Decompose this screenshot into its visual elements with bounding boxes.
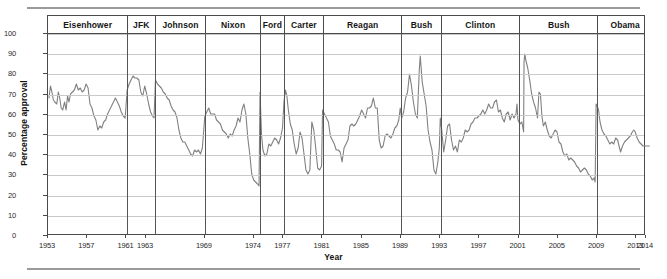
president-band-ford-4: Ford: [260, 16, 284, 33]
x-tick-mark: [635, 235, 636, 238]
y-axis-label: Percentage approval: [19, 63, 29, 183]
x-tick-mark: [439, 235, 440, 238]
y-tick-label: 50: [0, 130, 16, 139]
president-band-bush-9: Bush: [519, 16, 597, 33]
y-tick-mark: [43, 114, 47, 115]
gridline-y: [48, 95, 644, 96]
president-band-jfk-1: JFK: [127, 16, 155, 33]
president-divider-line: [597, 34, 598, 234]
president-band-header: EisenhowerJFKJohnsonNixonFordCarterReaga…: [47, 15, 645, 33]
x-tick-label: 1974: [245, 241, 261, 250]
x-tick-label: 1953: [39, 241, 55, 250]
gridline-y: [48, 216, 644, 217]
y-tick-mark: [43, 134, 47, 135]
y-tick-label: 80: [0, 69, 16, 78]
y-tick-label: 10: [0, 210, 16, 219]
president-divider-line: [127, 34, 128, 234]
x-tick-mark: [557, 235, 558, 238]
x-axis-label: Year: [0, 252, 667, 262]
y-tick-mark: [43, 215, 47, 216]
x-tick-label: 1969: [196, 241, 212, 250]
x-tick-mark: [478, 235, 479, 238]
y-tick-label: 40: [0, 150, 16, 159]
president-divider-line: [205, 34, 206, 234]
president-divider-line: [519, 34, 520, 234]
president-band-johnson-2: Johnson: [155, 16, 206, 33]
gridline-y: [48, 196, 644, 197]
president-divider-line: [155, 34, 156, 234]
x-tick-mark: [518, 235, 519, 238]
x-tick-label: 1997: [470, 241, 486, 250]
gridline-y: [48, 155, 644, 156]
x-tick-label: 2014: [637, 241, 653, 250]
x-tick-mark: [400, 235, 401, 238]
x-tick-mark: [645, 235, 646, 238]
x-tick-mark: [86, 235, 87, 238]
plot-area: [47, 33, 645, 235]
x-tick-label: 1989: [392, 241, 408, 250]
top-divider-rule: [27, 7, 640, 9]
y-tick-label: 100: [0, 29, 16, 38]
x-tick-label: 1957: [78, 241, 94, 250]
chart-page: EisenhowerJFKJohnsonNixonFordCarterReaga…: [0, 0, 667, 279]
approval-line-series: [48, 34, 644, 234]
y-tick-label: 20: [0, 190, 16, 199]
y-tick-mark: [43, 53, 47, 54]
x-tick-label: 1963: [137, 241, 153, 250]
president-divider-line: [260, 34, 261, 234]
y-tick-mark: [43, 33, 47, 34]
x-tick-label: 1961: [117, 241, 133, 250]
x-tick-label: 2005: [549, 241, 565, 250]
x-tick-mark: [282, 235, 283, 238]
x-tick-label: 2001: [510, 241, 526, 250]
gridline-y: [48, 135, 644, 136]
y-tick-label: 30: [0, 170, 16, 179]
x-tick-label: 1977: [274, 241, 290, 250]
president-band-carter-5: Carter: [284, 16, 323, 33]
gridline-y: [48, 74, 644, 75]
x-tick-mark: [596, 235, 597, 238]
y-tick-mark: [43, 195, 47, 196]
y-tick-mark: [43, 154, 47, 155]
x-tick-label: 1981: [314, 241, 330, 250]
president-band-bush-7: Bush: [401, 16, 440, 33]
bottom-divider-rule: [27, 268, 640, 270]
x-tick-mark: [145, 235, 146, 238]
president-band-nixon-3: Nixon: [205, 16, 260, 33]
president-band-reagan-6: Reagan: [323, 16, 401, 33]
x-tick-mark: [361, 235, 362, 238]
president-band-obama-10: Obama: [597, 16, 651, 33]
y-tick-mark: [43, 174, 47, 175]
x-tick-label: 2009: [588, 241, 604, 250]
president-divider-line: [284, 34, 285, 234]
y-tick-label: 60: [0, 109, 16, 118]
gridline-y: [48, 115, 644, 116]
president-divider-line: [323, 34, 324, 234]
president-divider-line: [401, 34, 402, 234]
x-tick-label: 1993: [431, 241, 447, 250]
gridline-y: [48, 54, 644, 55]
president-divider-line: [441, 34, 442, 234]
x-tick-mark: [321, 235, 322, 238]
gridline-y: [48, 175, 644, 176]
x-tick-mark: [125, 235, 126, 238]
x-tick-mark: [253, 235, 254, 238]
x-tick-mark: [47, 235, 48, 238]
president-band-eisenhower-0: Eisenhower: [48, 16, 126, 33]
gridline-y: [48, 34, 644, 35]
x-tick-label: 1985: [353, 241, 369, 250]
y-tick-mark: [43, 73, 47, 74]
x-tick-mark: [204, 235, 205, 238]
y-tick-label: 0: [0, 231, 16, 240]
y-tick-label: 90: [0, 49, 16, 58]
president-band-clinton-8: Clinton: [441, 16, 519, 33]
y-tick-mark: [43, 94, 47, 95]
y-tick-label: 70: [0, 89, 16, 98]
